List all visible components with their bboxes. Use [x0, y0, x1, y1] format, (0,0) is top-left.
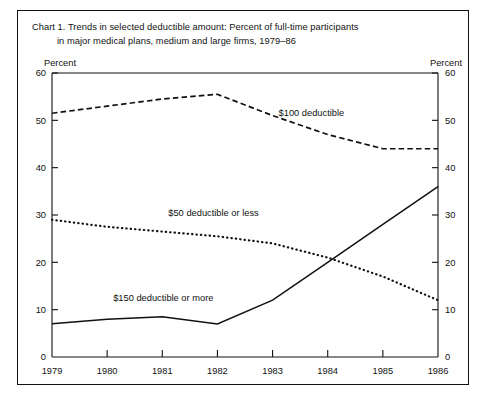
x-tick-label: 1980 [97, 366, 118, 376]
y-tick-label-left: 60 [36, 68, 46, 78]
series-line-100-deductible [52, 94, 438, 148]
x-tick-label: 1982 [207, 366, 228, 376]
y-tick-label-right: 30 [445, 210, 455, 220]
y-tick-label-left: 10 [36, 305, 46, 315]
plot-area: 0102030405060010203040506019791980198119… [18, 11, 470, 386]
y-tick-label-left: 50 [36, 116, 46, 126]
x-tick-label: 1984 [317, 366, 338, 376]
series-line-50-deductible-or-less [52, 220, 438, 300]
x-tick-label: 1981 [152, 366, 173, 376]
x-tick-label: 1985 [373, 366, 394, 376]
y-tick-label-left: 30 [36, 210, 46, 220]
y-tick-label-left: 0 [41, 352, 46, 362]
x-tick-label: 1983 [262, 366, 283, 376]
x-tick-label: 1986 [428, 366, 449, 376]
y-tick-label-right: 50 [445, 116, 455, 126]
series-annotation: $100 deductible [279, 108, 345, 118]
y-tick-label-right: 0 [445, 352, 450, 362]
y-tick-label-left: 20 [36, 258, 46, 268]
x-tick-label: 1979 [42, 366, 63, 376]
series-annotation: $50 deductible or less [168, 208, 259, 218]
y-tick-label-left: 40 [36, 163, 46, 173]
y-tick-label-right: 20 [445, 258, 455, 268]
y-tick-label-right: 60 [445, 68, 455, 78]
chart-frame: Chart 1. Trends in selected deductible a… [17, 10, 469, 385]
line-chart-svg: 0102030405060010203040506019791980198119… [18, 11, 470, 386]
series-annotation: $150 deductible or more [113, 293, 213, 303]
y-tick-label-right: 10 [445, 305, 455, 315]
y-tick-label-right: 40 [445, 163, 455, 173]
